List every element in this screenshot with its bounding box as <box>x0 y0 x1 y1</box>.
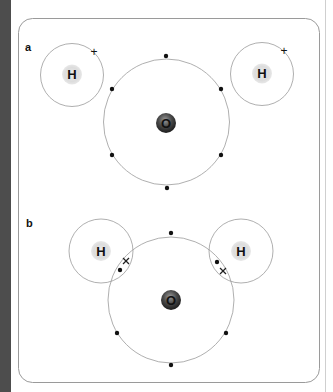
electron-dot-icon <box>219 87 223 91</box>
hydrogen-symbol: H <box>257 66 266 81</box>
electron-dot-icon <box>110 153 114 157</box>
shared-electron-dot-icon <box>215 260 219 264</box>
oxygen-symbol: O <box>161 116 171 131</box>
hydrogen-symbol: H <box>236 244 245 259</box>
shared-electron-dot-icon <box>118 268 122 272</box>
electron-dot-icon <box>169 363 173 367</box>
hydrogen-symbol: H <box>67 67 76 82</box>
panel-b-label: b <box>26 217 33 229</box>
panel-b-hydrogen-right: H <box>209 219 273 283</box>
electron-dot-icon <box>115 331 119 335</box>
shared-electron-cross-icon <box>220 268 226 274</box>
electron-dot-icon <box>164 54 168 58</box>
panel-a-oxygen: O <box>104 54 230 190</box>
panel-a-hydrogen-right: H + <box>231 43 294 106</box>
panel-b: b H H <box>26 217 273 367</box>
panel-a: a H + H + O <box>25 41 294 190</box>
electron-dot-icon <box>169 231 173 235</box>
electron-dot-icon <box>224 331 228 335</box>
hydrogen-symbol: H <box>96 244 105 259</box>
electron-dot-icon <box>165 186 169 190</box>
electron-dot-icon <box>110 87 114 91</box>
shared-electron-cross-icon <box>123 258 129 264</box>
hydrogen-electron-plus-icon: + <box>280 44 287 58</box>
panel-a-hydrogen-left: H + <box>41 44 104 107</box>
panel-b-hydrogen-left: H <box>69 219 133 283</box>
panel-a-label: a <box>25 41 32 53</box>
hydrogen-electron-plus-icon: + <box>90 45 97 59</box>
oxygen-symbol: O <box>166 293 176 308</box>
water-molecule-diagram: a H + H + O b <box>0 0 333 392</box>
electron-dot-icon <box>219 153 223 157</box>
